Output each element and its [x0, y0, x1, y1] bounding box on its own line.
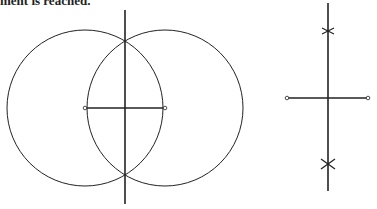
endpoint-left	[83, 106, 87, 110]
diagram-canvas	[0, 0, 377, 209]
figure-right	[285, 3, 370, 191]
figure-left	[7, 10, 243, 204]
endpoint-left	[285, 96, 289, 100]
endpoint-right	[163, 106, 167, 110]
endpoint-right	[366, 96, 370, 100]
